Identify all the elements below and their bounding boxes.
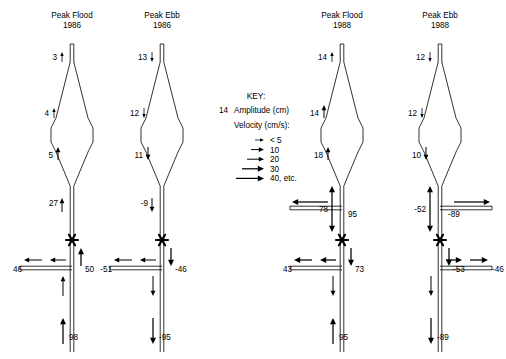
figure-canvas: Peak Flood198634527509846Peak Ebb1986131… (0, 0, 506, 359)
key-scale-label-0: < 5 (270, 136, 282, 145)
panel-title-line2: 1986 (63, 21, 82, 30)
branch-value: -46 (492, 265, 504, 274)
lower-channel-value: -89 (437, 333, 449, 342)
panel-title-line1: Peak Ebb (422, 11, 458, 20)
lower-channel-value: -95 (159, 333, 171, 342)
key-scale-label-1: 10 (270, 146, 280, 155)
basin-value-0: 12 (416, 53, 426, 62)
key-title: KEY: (247, 91, 266, 101)
key-amplitude-value: 14 (219, 106, 229, 115)
upper-channel-value: 78 (319, 205, 329, 214)
branch-value: 46 (13, 265, 23, 274)
basin-value-2: 18 (314, 151, 324, 160)
tidal-flow-svg: Peak Flood198634527509846Peak Ebb1986131… (0, 0, 506, 359)
key-scale-label-2: 20 (270, 155, 280, 164)
basin-value-2: 5 (48, 151, 53, 160)
mid-channel-value: -46 (175, 265, 187, 274)
key-scale-label-3: 30 (270, 165, 280, 174)
mid-channel-value: 50 (85, 265, 95, 274)
basin-value-1: 12 (408, 109, 418, 118)
basin-value-2: 10 (412, 151, 422, 160)
panel-title-line1: Peak Ebb (144, 11, 180, 20)
basin-value-1: 12 (130, 109, 140, 118)
basin-value-1: 4 (44, 109, 49, 118)
key-velocity-label: Velocity (cm/s): (234, 121, 290, 130)
basin-value-1: 14 (310, 109, 320, 118)
upper-channel-value: -9 (141, 199, 149, 208)
mid-channel-value: -53 (453, 265, 465, 274)
upper-branch-value: -89 (448, 210, 460, 219)
panel-title-line1: Peak Flood (51, 11, 93, 20)
panel-title-line2: 1988 (431, 21, 450, 30)
lower-channel-value: 98 (69, 333, 79, 342)
panel-title-line2: 1988 (333, 21, 352, 30)
basin-value-0: 3 (52, 53, 57, 62)
basin-value-0: 14 (318, 53, 328, 62)
basin-value-0: 13 (138, 53, 148, 62)
upper-channel-value: 27 (49, 199, 59, 208)
panel-title-line2: 1986 (153, 21, 172, 30)
branch-value: 43 (283, 265, 293, 274)
basin-value-2: 11 (135, 151, 144, 160)
upper-channel-value: -52 (414, 205, 426, 214)
upper-branch-value: 95 (348, 210, 358, 219)
lower-channel-value: 95 (339, 333, 349, 342)
branch-value: -51 (100, 265, 112, 274)
mid-channel-value: 73 (355, 265, 365, 274)
key-scale-label-4: 40, etc. (270, 174, 297, 183)
key-amplitude-label: Amplitude (cm) (234, 106, 289, 115)
panel-title-line1: Peak Flood (321, 11, 363, 20)
